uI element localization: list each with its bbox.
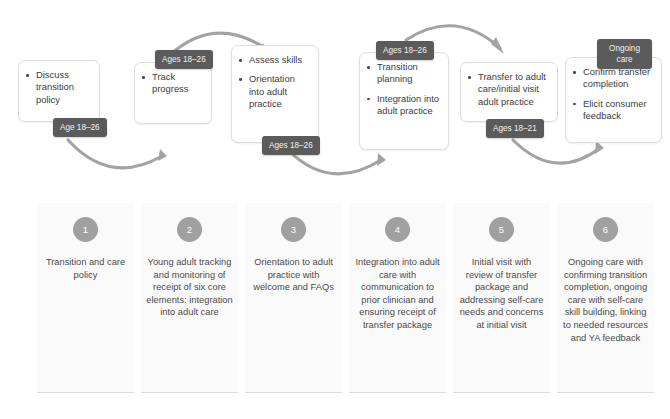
flow-box-confirm-transfer-completion[interactable]: Confirm transfer completion Elicit consu…: [565, 57, 662, 143]
step-number-badge: 1: [73, 217, 98, 242]
step-card-4[interactable]: 4 Integration into adult care with commu…: [349, 203, 446, 393]
flow-bullet: Discuss transition policy: [25, 69, 92, 106]
flow-bullet: Confirm transfer completion: [572, 66, 654, 91]
step-number-badge: 6: [593, 217, 618, 242]
flow-bullet: Track progress: [141, 71, 204, 96]
flow-box-discuss-transition-policy[interactable]: Discuss transition policy: [18, 60, 100, 122]
step-description: Transition and care policy: [37, 256, 134, 281]
step-description: Ongoing care with confirming transition …: [557, 256, 654, 344]
step-card-3[interactable]: 3 Orientation to adult practice with wel…: [245, 203, 342, 393]
flow-box-bullet-list: Confirm transfer completion Elicit consu…: [572, 66, 654, 123]
step-number-badge: 2: [177, 217, 202, 242]
step-card-2[interactable]: 2 Young adult tracking and monitoring of…: [141, 203, 238, 393]
step-description: Orientation to adult practice with welco…: [245, 256, 342, 294]
tag-ages-18-26-c: Ages 18–26: [262, 136, 320, 155]
step-description: Initial visit with review of transfer pa…: [453, 256, 550, 332]
flow-bullet: Transition planning: [366, 61, 441, 86]
transition-flow-diagram: Discuss transition policy Age 18–26 Trac…: [0, 0, 670, 196]
flow-box-transition-planning[interactable]: Transition planning Integration into adu…: [359, 52, 449, 150]
step-number-badge: 4: [385, 217, 410, 242]
tag-ages-18-26-d: Ages 18–26: [376, 41, 434, 60]
tag-ongoing-care: Ongoing care: [597, 39, 652, 69]
flow-bullet: Elicit consumer feedback: [572, 98, 654, 123]
step-number-badge: 5: [489, 217, 514, 242]
arrow-5: [513, 140, 604, 163]
flow-box-assess-skills[interactable]: Assess skills Orientation into adult pra…: [231, 45, 319, 143]
flow-box-transfer-to-adult-care[interactable]: Transfer to adult care/initial visit adu…: [460, 62, 558, 122]
six-core-elements-steps: 1 Transition and care policy 2 Young adu…: [0, 203, 670, 403]
flow-box-track-progress[interactable]: Track progress: [134, 62, 212, 124]
flow-bullet: Orientation into adult practice: [238, 73, 311, 110]
tag-age-18-26-a: Age 18–26: [53, 118, 107, 137]
flow-bullet: Assess skills: [238, 54, 311, 66]
flow-box-bullet-list: Assess skills Orientation into adult pra…: [238, 54, 311, 111]
flow-box-bullet-list: Transfer to adult care/initial visit adu…: [467, 71, 550, 108]
arrow-1: [68, 140, 167, 168]
flow-bullet: Integration into adult practice: [366, 93, 441, 118]
step-card-6[interactable]: 6 Ongoing care with confirming transitio…: [557, 203, 654, 393]
flow-box-bullet-list: Discuss transition policy: [25, 69, 92, 106]
flow-bullet: Transfer to adult care/initial visit adu…: [467, 71, 550, 108]
step-description: Young adult tracking and monitoring of r…: [141, 256, 238, 319]
flow-box-bullet-list: Track progress: [141, 71, 204, 96]
step-card-1[interactable]: 1 Transition and care policy: [37, 203, 134, 393]
step-description: Integration into adult care with communi…: [349, 256, 446, 332]
tag-ages-18-21-e: Ages 18–21: [486, 119, 544, 138]
step-number-badge: 3: [281, 217, 306, 242]
step-card-5[interactable]: 5 Initial visit with review of transfer …: [453, 203, 550, 393]
flow-box-bullet-list: Transition planning Integration into adu…: [366, 61, 441, 118]
tag-ages-18-26-b: Ages 18–26: [155, 50, 213, 69]
